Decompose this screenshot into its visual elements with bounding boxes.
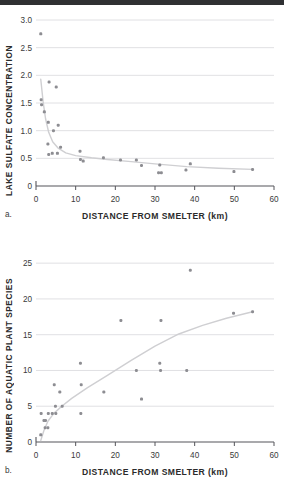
trend-line-b xyxy=(41,312,253,441)
data-point xyxy=(59,146,62,149)
scatter-plot-b: 05101520250102030405060 xyxy=(36,256,274,442)
x-tick-label: 30 xyxy=(150,451,159,460)
x-tick-label: 40 xyxy=(190,451,199,460)
data-point xyxy=(80,383,83,386)
data-point xyxy=(54,405,57,408)
y-axis-title-b-text: NUMBER OF AQUATIC PLANT SPECIES xyxy=(4,278,14,453)
y-tick-label: 0 xyxy=(27,182,32,191)
y-tick-label: 2.5 xyxy=(21,43,32,52)
trend-line-a xyxy=(41,79,253,169)
data-point xyxy=(140,398,143,401)
data-point xyxy=(159,369,162,372)
x-tick-label: 60 xyxy=(269,451,278,460)
y-tick-label: 20 xyxy=(23,294,32,303)
data-point xyxy=(44,419,47,422)
figure-b: NUMBER OF AQUATIC PLANT SPECIES 05101520… xyxy=(0,242,284,489)
x-axis-title-b: DISTANCE FROM SMELTER (km) xyxy=(36,467,274,477)
data-point xyxy=(56,152,59,155)
data-point xyxy=(160,171,163,174)
y-tick-label: 25 xyxy=(23,259,32,268)
axes-a xyxy=(36,181,274,190)
data-point xyxy=(102,156,105,159)
data-point xyxy=(159,319,162,322)
top-dark-bar xyxy=(0,0,284,5)
panel-tag-b: b. xyxy=(5,466,12,475)
y-axis-title-b: NUMBER OF AQUATIC PLANT SPECIES xyxy=(0,242,18,489)
x-tick-label: 0 xyxy=(34,451,39,460)
data-point xyxy=(53,383,56,386)
gridlines-a xyxy=(36,20,274,158)
x-tick-label: 0 xyxy=(34,195,39,204)
data-point xyxy=(157,171,160,174)
data-point xyxy=(102,390,105,393)
data-point xyxy=(48,80,51,83)
x-tick-label: 50 xyxy=(230,451,239,460)
data-point xyxy=(79,412,82,415)
y-axis-title-a-text: LAKE SULFATE CONCENTRATION xyxy=(4,45,14,196)
y-axis-title-a: LAKE SULFATE CONCENTRATION xyxy=(0,6,18,234)
data-point xyxy=(39,433,42,436)
data-points-b xyxy=(39,269,254,437)
data-point xyxy=(44,426,47,429)
y-tick-label: 2.0 xyxy=(21,71,32,80)
data-point xyxy=(158,362,161,365)
data-point xyxy=(232,312,235,315)
y-tick-label: 0.5 xyxy=(21,154,32,163)
data-point xyxy=(135,369,138,372)
data-point xyxy=(189,162,192,165)
data-point xyxy=(39,32,42,35)
data-point xyxy=(43,110,46,113)
figure-a: LAKE SULFATE CONCENTRATION 00.51.01.52.0… xyxy=(0,6,284,234)
y-tick-label: 1.5 xyxy=(21,99,32,108)
data-point xyxy=(40,98,43,101)
data-point xyxy=(51,152,54,155)
axes-b xyxy=(36,437,274,446)
y-tick-label: 0 xyxy=(27,438,32,447)
data-point xyxy=(79,158,82,161)
y-tick-label: 1.0 xyxy=(21,126,32,135)
data-point xyxy=(251,310,254,313)
y-tick-label: 5 xyxy=(27,402,32,411)
panel-tag-a: a. xyxy=(5,210,12,219)
data-point xyxy=(135,158,138,161)
x-tick-label: 20 xyxy=(111,195,120,204)
data-point xyxy=(79,362,82,365)
gridlines-b xyxy=(36,263,274,406)
figure-page: LAKE SULFATE CONCENTRATION 00.51.01.52.0… xyxy=(0,0,284,489)
data-point xyxy=(184,168,187,171)
data-point xyxy=(58,390,61,393)
x-tick-label: 30 xyxy=(150,195,159,204)
data-point xyxy=(158,163,161,166)
data-point xyxy=(46,426,49,429)
x-tick-label: 10 xyxy=(71,451,80,460)
x-tick-label: 50 xyxy=(230,195,239,204)
scatter-plot-a: 00.51.01.52.02.53.00102030405060 xyxy=(36,20,274,186)
data-point xyxy=(119,158,122,161)
data-point xyxy=(40,103,43,106)
y-tick-label: 15 xyxy=(23,330,32,339)
data-point xyxy=(40,412,43,415)
data-point xyxy=(55,85,58,88)
data-point xyxy=(251,168,254,171)
data-point xyxy=(140,164,143,167)
y-tick-label: 10 xyxy=(23,366,32,375)
y-tick-label: 3.0 xyxy=(21,16,32,25)
x-tick-label: 20 xyxy=(111,451,120,460)
x-tick-label: 10 xyxy=(71,195,80,204)
data-point xyxy=(189,269,192,272)
data-point xyxy=(47,153,50,156)
data-point xyxy=(47,121,50,124)
data-point xyxy=(79,150,82,153)
data-point xyxy=(185,369,188,372)
x-tick-label: 60 xyxy=(269,195,278,204)
data-point xyxy=(82,160,85,163)
data-point xyxy=(52,129,55,132)
x-tick-label: 40 xyxy=(190,195,199,204)
data-point xyxy=(46,142,49,145)
data-point xyxy=(54,412,57,415)
data-point xyxy=(47,412,50,415)
data-point xyxy=(119,319,122,322)
data-point xyxy=(51,412,54,415)
data-point xyxy=(232,170,235,173)
x-axis-title-a: DISTANCE FROM SMELTER (km) xyxy=(36,211,274,221)
